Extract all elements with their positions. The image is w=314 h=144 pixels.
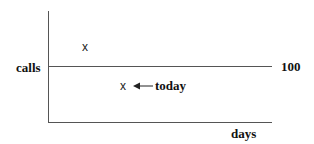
data-point-marker-today: x	[120, 80, 126, 92]
x-axis	[48, 122, 272, 123]
reference-line-label: 100	[281, 60, 301, 73]
today-annotation: today	[155, 79, 186, 92]
y-axis-label: calls	[16, 61, 41, 74]
y-axis	[48, 11, 49, 123]
left-arrow-icon	[133, 82, 153, 90]
reference-line	[48, 66, 272, 67]
x-axis-label: days	[231, 127, 256, 140]
data-point-marker: x	[82, 41, 88, 53]
